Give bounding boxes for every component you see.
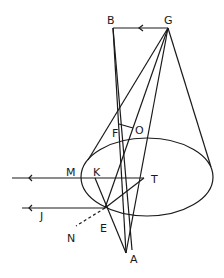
- label-g: G: [164, 14, 173, 27]
- label-a: A: [130, 253, 138, 266]
- label-t: T: [150, 173, 158, 186]
- label-m: M: [66, 166, 76, 179]
- label-f: F: [112, 127, 118, 140]
- label-n: N: [67, 232, 75, 245]
- label-k: K: [93, 166, 101, 179]
- line-k-a: [95, 178, 126, 253]
- line-g-right: [168, 28, 211, 167]
- label-e: E: [100, 222, 107, 235]
- label-j: J: [39, 210, 43, 223]
- label-b: B: [107, 14, 115, 27]
- cone-diagram: B G F O M K T J E N A: [0, 0, 224, 278]
- ellipse-base: [81, 138, 213, 216]
- label-o: O: [135, 124, 144, 137]
